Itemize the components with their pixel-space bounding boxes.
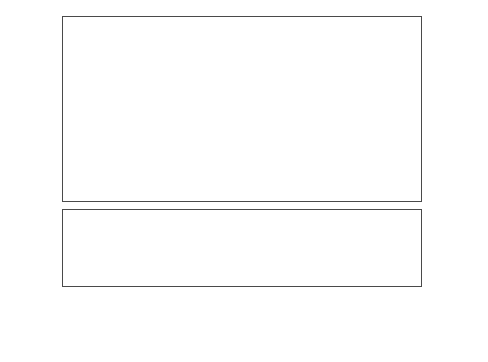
chart-canvas	[0, 0, 488, 362]
chart-graphics	[0, 0, 488, 362]
